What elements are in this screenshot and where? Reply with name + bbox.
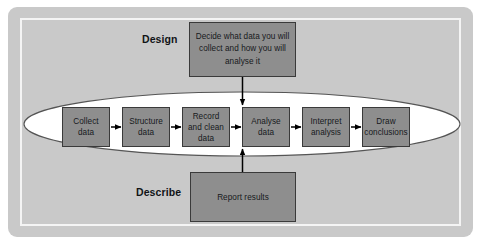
phase-label-design: Design — [142, 33, 178, 45]
design-note-box: Decide what data you will collect and ho… — [189, 22, 296, 77]
research-process-diagram: Design Describe Decide what data you wil… — [0, 0, 481, 244]
process-step-collect-data: Collect data — [62, 107, 110, 147]
process-step-record-and-clean-data: Record and clean data — [182, 107, 230, 147]
process-step-draw-conclusions: Draw conclusions — [362, 107, 410, 147]
process-step-structure-data: Structure data — [122, 107, 170, 147]
process-step-analyse-data: Analyse data — [242, 107, 290, 147]
phase-label-describe: Describe — [136, 186, 181, 198]
describe-note-box: Report results — [190, 172, 296, 222]
process-step-interpret-analysis: Interpret analysis — [302, 107, 350, 147]
